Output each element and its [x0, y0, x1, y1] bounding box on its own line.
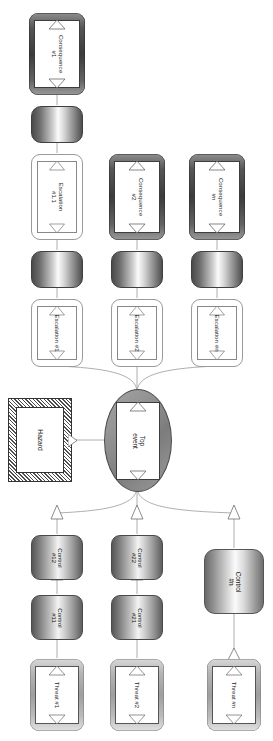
escalation-inner-2: Escalation #2 [117, 306, 157, 360]
consequence-inner-2: Consequence #2 [114, 161, 160, 233]
escalation-node-n[interactable]: Escalation #n [191, 299, 243, 367]
recovery-barrier-1[interactable] [31, 106, 83, 143]
threat-label-1: Threat #1 [54, 682, 61, 708]
hazard-label: Hazard [36, 429, 43, 450]
escalation-label-n: Escalation #n [214, 314, 221, 351]
control-label-11: Control #11 [51, 608, 64, 627]
threat-node-1[interactable]: Threat #1 [30, 659, 84, 731]
threat-inner-2: Threat #2 [115, 666, 159, 724]
consequence-label-2: Consequence #2 [130, 178, 143, 216]
consequence-label-n: Consequence #n [210, 178, 223, 216]
escalation-node-1[interactable]: Escalation #1 [31, 299, 83, 367]
control-node-11[interactable]: Control #11 [31, 595, 83, 640]
chevron-up-icon [226, 666, 242, 675]
control-label-22: Control #22 [131, 548, 144, 567]
chevron-up-icon [49, 20, 65, 29]
chevron-up-icon [50, 306, 65, 315]
control-node-22[interactable]: Control #22 [111, 535, 163, 580]
control-node-21[interactable]: Control #21 [111, 595, 163, 640]
control-node-12[interactable]: Control #12 [31, 535, 83, 580]
threat-node-n[interactable]: Threat #n [207, 659, 261, 731]
escalation-inner-1: Escalation #1 [37, 306, 77, 360]
chevron-up-icon [130, 306, 145, 315]
consequence-inner-1: Consequence #1 [34, 20, 80, 88]
consequence-inner-n: Consequence #n [194, 161, 240, 233]
chevron-up-icon [129, 161, 145, 170]
hazard-to-topevent-arrow-icon [68, 434, 78, 447]
chevron-down-icon [130, 471, 146, 480]
escalation-label-1-1: Escalation #1.1 [50, 183, 63, 212]
control-label-21: Control #21 [131, 608, 144, 627]
chevron-down-icon [49, 79, 65, 88]
chevron-up-icon [210, 306, 225, 315]
chevron-up-icon [129, 666, 145, 675]
escalation-inner-n: Escalation #n [197, 306, 237, 360]
top-event-inner: Top event [116, 402, 160, 480]
top-event-node[interactable]: Top event [104, 389, 172, 492]
top-event-label: Top event [131, 433, 145, 449]
escalation-label-1: Escalation #1 [54, 314, 61, 351]
consequence-label-1: Consequence #1 [50, 35, 63, 73]
recovery-barrier-3[interactable] [111, 251, 163, 288]
control-label-12: Control #12 [51, 548, 64, 567]
consequence-node-2[interactable]: Consequence #2 [109, 154, 165, 240]
control-node-n[interactable]: Control #n [204, 549, 264, 614]
chevron-down-icon [129, 224, 145, 233]
control-label-n: Control #n [227, 571, 241, 592]
chevron-up-icon [130, 402, 146, 411]
threat-node-2[interactable]: Threat #2 [110, 659, 164, 731]
consequence-node-n[interactable]: Consequence #n [189, 154, 245, 240]
threat-inner-1: Threat #1 [35, 666, 79, 724]
chevron-down-icon [130, 351, 145, 360]
threat-label-2: Threat #2 [134, 682, 141, 708]
hazard-inner: Hazard [16, 407, 64, 473]
consequence-node-1[interactable]: Consequence #1 [29, 13, 85, 95]
recovery-barrier-4[interactable] [191, 251, 243, 288]
chevron-up-icon [50, 161, 65, 170]
threat-label-n: Threat #n [231, 682, 238, 708]
chevron-down-icon [209, 224, 225, 233]
escalation-node-2[interactable]: Escalation #2 [111, 299, 163, 367]
chevron-down-icon [50, 351, 65, 360]
chevron-up-icon [209, 161, 225, 170]
chevron-down-icon [129, 715, 145, 724]
hazard-node[interactable]: Hazard [8, 398, 72, 482]
chevron-down-icon [49, 715, 65, 724]
chevron-down-icon [210, 351, 225, 360]
chevron-down-icon [226, 715, 242, 724]
escalation-label-2: Escalation #2 [134, 314, 141, 351]
threat-inner-n: Threat #n [212, 666, 256, 724]
escalation-node-1-1[interactable]: Escalation #1.1 [31, 154, 83, 240]
escalation-inner-1-1: Escalation #1.1 [37, 161, 77, 233]
chevron-down-icon [50, 224, 65, 233]
recovery-barrier-2[interactable] [31, 251, 83, 288]
chevron-up-icon [49, 666, 65, 675]
bowtie-diagram: Consequence #1 Escalation #1.1 [0, 0, 273, 741]
